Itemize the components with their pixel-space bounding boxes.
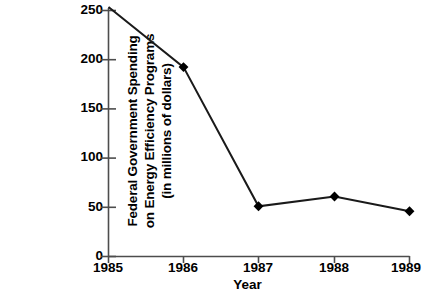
data-line-series	[109, 7, 410, 211]
data-point-1988	[330, 192, 340, 202]
x-tick-label-1987: 1987	[228, 261, 288, 275]
x-axis-title: Year	[0, 277, 419, 292]
data-point-1987	[254, 201, 264, 211]
x-tick-label-1989: 1989	[376, 261, 426, 275]
x-axis-title-text: Year	[233, 277, 262, 292]
x-tick-label-1988: 1988	[304, 261, 364, 275]
data-point-markers	[179, 62, 415, 216]
x-tick-label-1985: 1985	[78, 261, 138, 275]
x-tick-label-1986: 1986	[153, 261, 213, 275]
data-point-1989	[405, 206, 415, 216]
